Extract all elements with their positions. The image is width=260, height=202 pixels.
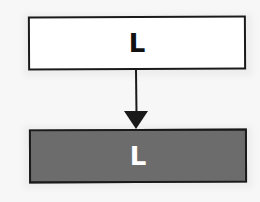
arrowhead-icon [124,111,148,129]
diagram-canvas: L L [0,0,260,202]
bottom-node: L [29,129,247,184]
bottom-node-label: L [130,143,147,169]
arrow-line [136,70,137,114]
